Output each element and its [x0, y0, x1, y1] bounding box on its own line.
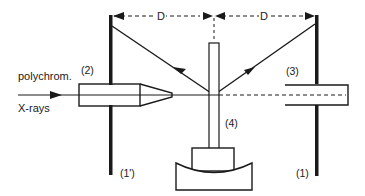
arrow-right-icon	[305, 12, 315, 20]
arrow-center-right-icon	[215, 12, 225, 20]
sample-holder	[176, 43, 252, 190]
laue-diffraction-diagram: D D polychrom. X-rays (2) (3) (4) (1') (…	[0, 0, 365, 196]
beam-arrow-icon	[50, 91, 62, 99]
source-label-line1: polychrom.	[18, 70, 72, 82]
distance-label-right: D	[260, 10, 268, 22]
ray-arrow-left-icon	[173, 67, 186, 74]
distance-label-left: D	[157, 10, 165, 22]
ray-arrow-right-icon	[244, 67, 255, 75]
arrow-center-left-icon	[203, 12, 213, 20]
collimator-label: (2)	[81, 64, 94, 76]
screen-left-label: (1')	[120, 167, 135, 179]
screen-right-label: (1)	[296, 167, 309, 179]
detector-tube	[219, 85, 348, 105]
distance-dimension	[113, 12, 315, 42]
arrow-left-icon	[113, 12, 124, 20]
detector-tube-label: (3)	[286, 65, 299, 77]
sample-holder-label: (4)	[225, 117, 238, 129]
source-label-line2: X-rays	[18, 102, 50, 114]
